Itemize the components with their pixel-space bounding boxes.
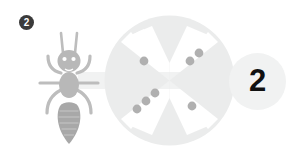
ant-abdomen <box>58 102 81 144</box>
ant-eye-icon <box>62 57 66 61</box>
value-circle: 2 <box>229 53 286 110</box>
wheel-dot <box>142 97 151 106</box>
wheel-disc <box>105 16 235 146</box>
wheel-dot <box>133 105 142 114</box>
wheel-dot <box>151 89 160 98</box>
ant-antenna-icon <box>75 33 77 53</box>
dotted-wheel <box>104 15 235 146</box>
ant-thorax <box>59 72 79 98</box>
step-badge: 2 <box>19 15 34 30</box>
wheel-dot <box>188 102 197 111</box>
diagram-canvas: 2 <box>0 0 293 160</box>
ant-eye-icon <box>71 57 75 61</box>
ant-head <box>58 50 81 72</box>
wheel-dot <box>195 49 204 58</box>
wheel-dot <box>140 57 149 66</box>
ant-icon <box>38 25 100 145</box>
value-circle-label: 2 <box>229 53 286 110</box>
wheel-dot <box>186 57 195 66</box>
ant-antenna-icon <box>61 33 63 53</box>
